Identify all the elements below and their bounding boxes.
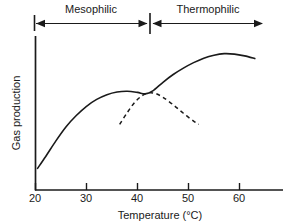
x-tick-label-20: 20 — [29, 192, 41, 204]
x-axis-ticks — [36, 183, 240, 190]
gas-production-temperature-chart: Mesophilic Thermophilic 20 30 40 50 — [0, 0, 295, 224]
x-tick-label-30: 30 — [80, 192, 92, 204]
x-axis-tick-labels: 20 30 40 50 60 — [29, 192, 245, 204]
mesophilic-range-arrow — [35, 15, 148, 31]
thermophilic-band-label: Thermophilic — [177, 3, 240, 15]
chart-curves — [38, 54, 255, 169]
solid-gas-production-curve — [38, 54, 255, 169]
x-tick-label-40: 40 — [131, 192, 143, 204]
dashed-mesophilic-decline-curve — [120, 93, 199, 125]
thermophilic-range-arrow — [153, 20, 264, 27]
mesophilic-arrow-head-left — [36, 20, 45, 27]
y-axis-title: Gas production — [10, 76, 22, 151]
mesophilic-arrow-head-right — [139, 20, 148, 27]
x-axis-title: Temperature (°C) — [118, 209, 202, 221]
x-tick-label-50: 50 — [182, 192, 194, 204]
range-annotations: Mesophilic Thermophilic — [35, 3, 264, 34]
chart-figure: Mesophilic Thermophilic 20 30 40 50 — [0, 0, 295, 224]
mesophilic-band-label: Mesophilic — [65, 3, 117, 15]
chart-axes: 20 30 40 50 60 Temperature (°C) Gas prod… — [10, 36, 283, 221]
thermophilic-arrow-head-left — [153, 20, 162, 27]
thermophilic-arrow-head-right — [254, 20, 263, 27]
x-tick-label-60: 60 — [233, 192, 245, 204]
